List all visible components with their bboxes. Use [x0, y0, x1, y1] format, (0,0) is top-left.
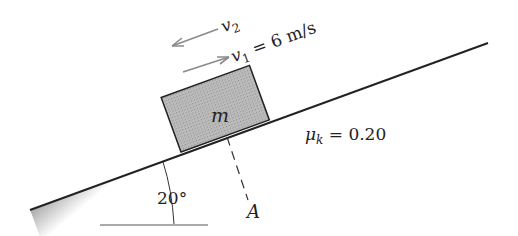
- point-a-label: A: [247, 201, 260, 222]
- mu-subscript: k: [316, 133, 323, 147]
- incline-diagram: v2 v1 = 6 m/s m μk = 0.20 20° A: [0, 0, 518, 236]
- arrow-v2-icon: [172, 29, 218, 46]
- arrow-v1-icon: [183, 57, 229, 72]
- incline-line: [30, 43, 488, 210]
- friction-value: = 0.20: [329, 124, 387, 144]
- block-mass-label: m: [211, 104, 229, 126]
- incline-angle-label: 20°: [157, 188, 187, 208]
- mu-symbol: μ: [305, 124, 316, 144]
- v1-subscript: 1: [240, 50, 252, 66]
- friction-coefficient-label: μk = 0.20: [305, 124, 386, 147]
- incline-surface-shading: [30, 43, 499, 236]
